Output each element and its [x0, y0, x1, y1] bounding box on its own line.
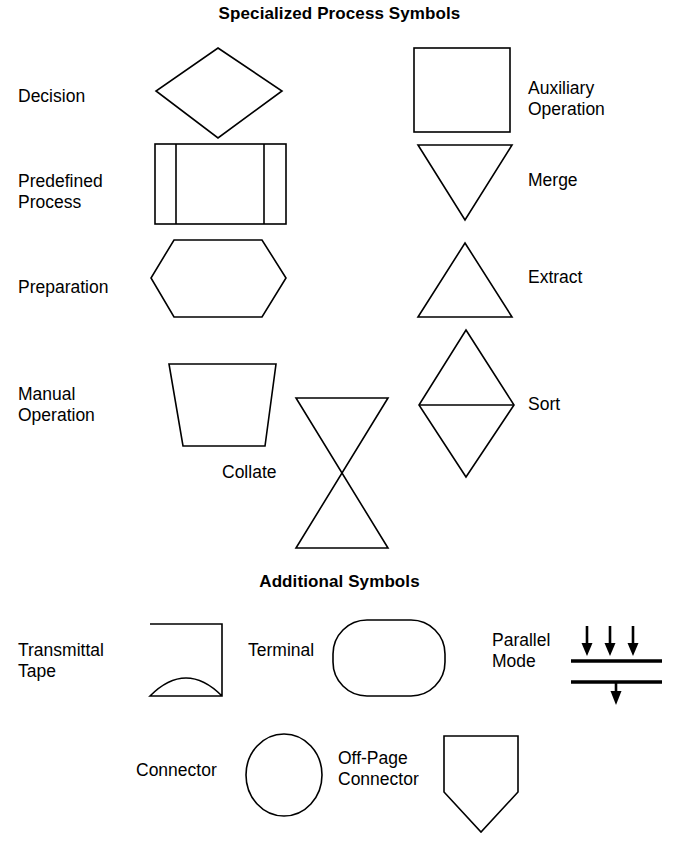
label-connector: Connector [136, 760, 217, 781]
label-terminal: Terminal [248, 640, 314, 661]
shape-extract [412, 238, 520, 324]
label-decision: Decision [18, 86, 85, 107]
label-merge: Merge [528, 170, 578, 191]
shape-auxiliary-operation [410, 44, 518, 138]
label-off-page-connector: Off-Page Connector [338, 748, 419, 790]
shape-merge [412, 141, 520, 227]
shape-collate [290, 392, 394, 554]
section-title-specialized: Specialized Process Symbols [0, 4, 679, 24]
label-predefined-process: Predefined Process [18, 171, 103, 213]
shape-connector [240, 728, 330, 824]
shape-off-page-connector [436, 730, 532, 840]
label-sort: Sort [528, 394, 560, 415]
shape-parallel-mode [566, 612, 672, 708]
shape-predefined-process [152, 141, 292, 231]
shape-terminal [328, 614, 454, 704]
label-parallel-mode: Parallel Mode [492, 630, 550, 672]
diagram-sheet: Specialized Process Symbols Decision Pre… [0, 0, 679, 846]
label-manual-operation: Manual Operation [18, 384, 95, 426]
shape-transmittal-tape [142, 618, 238, 704]
shape-sort [414, 326, 520, 482]
section-title-additional: Additional Symbols [0, 572, 679, 592]
label-extract: Extract [528, 267, 582, 288]
shape-manual-operation [162, 358, 284, 454]
shape-preparation [148, 236, 292, 324]
label-preparation: Preparation [18, 277, 108, 298]
shape-decision [152, 44, 286, 142]
label-auxiliary-operation: Auxiliary Operation [528, 78, 605, 120]
label-collate: Collate [222, 462, 276, 483]
label-transmittal-tape: Transmittal Tape [18, 640, 104, 682]
